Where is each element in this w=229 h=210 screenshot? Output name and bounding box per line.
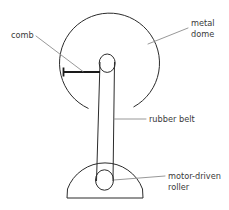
- label-metal-dome-line2: dome: [191, 29, 214, 39]
- van-de-graaff-diagram: comb metal dome rubber belt motor-driven…: [0, 0, 229, 210]
- label-motor-driven-roller-line2: roller: [168, 182, 190, 192]
- rubber-belt-right-strand: [113, 62, 115, 181]
- comb-shape: [64, 68, 101, 77]
- diagram-canvas: comb metal dome rubber belt motor-driven…: [0, 0, 229, 210]
- label-motor-driven-roller-line1: motor-driven: [168, 171, 221, 181]
- motor-driven-roller-leader-line: [114, 176, 165, 180]
- metal-dome-shape: [60, 13, 160, 108]
- label-metal-dome-line1: metal: [191, 18, 215, 28]
- label-rubber-belt: rubber belt: [149, 114, 195, 124]
- motor-driven-roller-shape: [96, 170, 114, 190]
- label-comb: comb: [11, 30, 34, 40]
- metal-dome-leader-line: [148, 28, 188, 44]
- motor-base-shape: [67, 163, 143, 198]
- top-roller-shape: [99, 54, 115, 72]
